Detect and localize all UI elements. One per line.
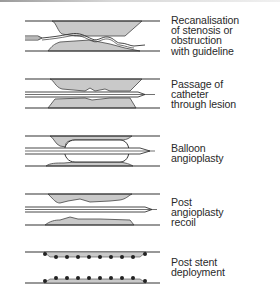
stage-label-recoil: Post angioplasty recoil — [171, 197, 224, 228]
stage-label-catheter-passage: Passage of catheter through lesion — [171, 79, 236, 110]
stage-stent-illustration — [25, 252, 160, 283]
stage-recoil-illustration — [25, 194, 160, 225]
stage-catheter-passage-illustration — [25, 79, 160, 108]
stage-balloon-illustration — [25, 136, 160, 166]
stage-recanalisation-illustration — [25, 21, 160, 51]
stage-label-balloon: Balloon angioplasty — [171, 143, 224, 163]
stage-label-recanalisation: Recanalisation of stenosis or obstructio… — [171, 15, 239, 56]
stage-label-stent: Post stent deployment — [171, 257, 225, 277]
